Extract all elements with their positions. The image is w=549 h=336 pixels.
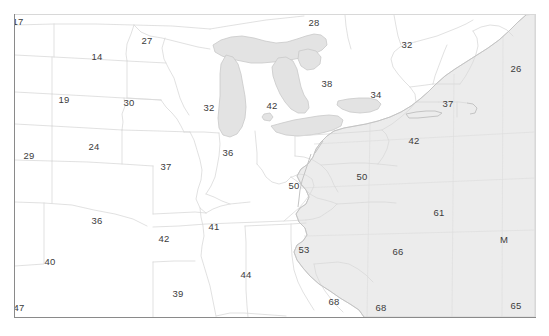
label-53: 53 [299,245,310,255]
border-ne-ks [15,124,122,130]
border-in-oh [255,131,257,164]
label-42-ar: 42 [159,234,170,244]
label-68-sc: 68 [329,297,340,307]
lake-michigan [218,55,246,137]
label-66: 66 [393,247,404,257]
border-ny-vt-ma [410,84,433,87]
border-ok-tx [15,202,147,226]
label-65: 65 [511,301,522,311]
lake-ontario [337,98,381,113]
border-canada-east [415,20,473,42]
border-ontario-north [210,16,304,29]
border-ia-wi-il [161,100,184,132]
border-il-in [206,133,220,194]
axis-spine-left [14,14,15,318]
label-47: 47 [14,303,24,313]
border-ky-tn [153,220,306,227]
label-26: 26 [511,64,522,74]
border-mo-il [190,132,206,213]
map-figure: 17 27 28 14 32 26 38 19 30 32 42 34 37 4… [0,0,549,336]
lake-st-clair [262,113,273,121]
label-19: 19 [59,95,70,105]
label-42-erie: 42 [267,101,278,111]
label-28: 28 [309,18,320,28]
label-38: 38 [322,79,333,89]
label-40: 40 [45,257,56,267]
label-30: 30 [124,98,135,108]
label-29: 29 [24,151,35,161]
border-nd-sd [15,55,166,63]
label-24: 24 [89,142,100,152]
label-42-nj: 42 [409,136,420,146]
atlantic-ocean-shape [294,14,535,317]
border-oh-ky-wv [257,164,291,184]
label-37-ne: 37 [443,99,454,109]
label-44: 44 [241,270,252,280]
border-quebec-line [394,15,401,45]
label-39: 39 [173,289,184,299]
great-lakes-layer [213,34,381,137]
border-nd-mn-vert [126,25,134,61]
border-ontario-quebec [345,15,351,49]
border-wi-il [184,132,219,133]
axis-spine-top [14,14,536,15]
label-36-ok: 36 [92,216,103,226]
label-M: M [500,235,508,245]
border-in-ky [206,194,230,204]
label-32-ny: 32 [402,40,413,50]
label-36-in: 36 [223,148,234,158]
label-34: 34 [371,90,382,100]
label-14: 14 [92,52,103,62]
ocean-layer [294,14,535,317]
border-canada-plains [15,24,210,29]
border-ia-mo [122,130,190,132]
label-41: 41 [209,222,220,232]
border-ks-ok [15,160,153,166]
label-27: 27 [142,36,153,46]
label-17: 17 [14,17,23,27]
border-mo-ar [153,212,206,214]
border-la-ms-coast [216,313,286,316]
map-panel: 17 27 28 14 32 26 38 19 30 32 42 34 37 4… [14,14,535,317]
label-61: 61 [434,208,445,218]
label-32-mi: 32 [204,103,215,113]
label-68-ga: 68 [376,303,387,313]
axis-spine-right [535,14,536,318]
border-tn-ga-al [245,223,306,226]
border-ar-la [153,261,195,262]
label-50-wv: 50 [289,181,300,191]
label-37-mo: 37 [161,162,172,172]
border-nm-tx-vert [15,203,44,266]
border-mn-wi [162,38,189,115]
axis-spine-bottom [14,317,536,318]
label-50-va: 50 [357,172,368,182]
